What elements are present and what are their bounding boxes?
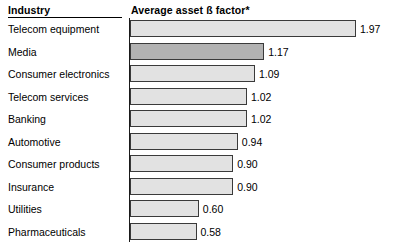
- bar-value-label: 1.97: [360, 18, 380, 41]
- bar-value-label: 1.17: [268, 41, 288, 64]
- chart-row: Telecom equipment1.97: [0, 18, 394, 41]
- chart-row: Insurance0.90: [0, 176, 394, 199]
- chart-row: Telecom services1.02: [0, 86, 394, 109]
- bar-value-label: 1.02: [251, 86, 271, 109]
- category-label: Insurance: [8, 176, 54, 199]
- column-header-industry: Industry: [8, 4, 50, 16]
- column-header-measure: Average asset ß factor*: [131, 4, 250, 16]
- chart-row: Banking1.02: [0, 108, 394, 131]
- chart-row: Media1.17: [0, 41, 394, 64]
- chart-row: Consumer products0.90: [0, 153, 394, 176]
- category-label: Consumer products: [8, 153, 100, 176]
- chart-row: Utilities0.60: [0, 198, 394, 221]
- category-label: Utilities: [8, 198, 42, 221]
- category-label: Automotive: [8, 131, 61, 154]
- chart-row: Consumer electronics1.09: [0, 63, 394, 86]
- chart-row: Automotive0.94: [0, 131, 394, 154]
- bar: [130, 88, 247, 105]
- bar: [130, 200, 199, 217]
- bar: [130, 223, 197, 240]
- bar: [130, 110, 247, 127]
- bar: [130, 178, 233, 195]
- category-label: Consumer electronics: [8, 63, 110, 86]
- bar-value-label: 0.90: [237, 153, 257, 176]
- bar: [130, 65, 255, 82]
- bar-value-label: 1.09: [259, 63, 279, 86]
- bar: [130, 20, 356, 37]
- bar-chart: Industry Average asset ß factor* Telecom…: [0, 0, 394, 244]
- category-label: Media: [8, 41, 37, 64]
- category-label: Banking: [8, 108, 46, 131]
- bar: [130, 133, 238, 150]
- category-label: Pharmaceuticals: [8, 221, 86, 244]
- bar-value-label: 0.58: [201, 221, 221, 244]
- bar-value-label: 0.90: [237, 176, 257, 199]
- bar: [130, 155, 233, 172]
- bar-value-label: 1.02: [251, 108, 271, 131]
- bar-value-label: 0.60: [203, 198, 223, 221]
- category-label: Telecom equipment: [8, 18, 99, 41]
- chart-rows: Telecom equipment1.97Media1.17Consumer e…: [0, 18, 394, 244]
- chart-row: Pharmaceuticals0.58: [0, 221, 394, 244]
- bar: [130, 43, 264, 60]
- bar-value-label: 0.94: [242, 131, 262, 154]
- category-label: Telecom services: [8, 86, 89, 109]
